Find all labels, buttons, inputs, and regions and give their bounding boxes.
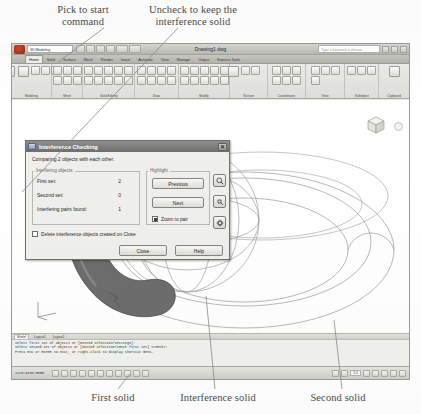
ribbon-tab-express-tools[interactable]: Express Tools xyxy=(213,55,244,63)
ribbon-panel-solid-editing: Solid Editing xyxy=(83,64,135,98)
autocad-logo-icon[interactable] xyxy=(14,45,25,54)
interfering-objects-label: Interfering objects xyxy=(34,168,75,173)
close-button[interactable]: Close xyxy=(119,245,167,256)
search-input[interactable]: Type a keyword or phrase xyxy=(318,45,380,53)
ribbon-panel-coordinates: Coordinates xyxy=(268,64,306,98)
panel-body xyxy=(388,65,401,85)
pan-icon[interactable] xyxy=(213,195,226,208)
help-button[interactable]: Help xyxy=(175,245,223,256)
zoom-icon[interactable] xyxy=(372,370,379,377)
panel-label-mesh: Mesh xyxy=(63,94,71,99)
autocad-window: 3D Modeling Drawing1.dwg Type a keyword … xyxy=(11,43,410,380)
ribbon-panel-subobject: Subobject xyxy=(345,64,379,98)
ribbon-tab-annotate[interactable]: Annotate xyxy=(134,55,157,63)
dialog-title-bar[interactable]: Interference Checking ✕ xyxy=(26,141,229,152)
viewcube[interactable] xyxy=(365,114,387,136)
layout-tab-layout1[interactable]: Layout1 xyxy=(32,335,48,339)
ribbon-tab-view[interactable]: View xyxy=(157,55,173,63)
panel-body xyxy=(272,65,301,85)
close-icon[interactable] xyxy=(400,46,407,53)
dialog-close-icon[interactable]: ✕ xyxy=(218,143,227,151)
redo-icon[interactable] xyxy=(129,45,141,53)
interfering-pairs-value: 1 xyxy=(118,206,135,212)
clean-screen-icon[interactable] xyxy=(399,370,406,377)
steering-wheel-icon[interactable] xyxy=(381,370,388,377)
ribbon-tab-render[interactable]: Render xyxy=(97,55,117,63)
new-icon[interactable] xyxy=(76,45,85,53)
ribbon-tab-mesh[interactable]: Mesh xyxy=(80,55,97,63)
modify-icons[interactable] xyxy=(180,66,229,85)
callout-pick-to-start: Pick to start command xyxy=(44,4,122,28)
minimize-icon[interactable] xyxy=(382,46,389,53)
navigation-wheel-icon[interactable] xyxy=(394,122,403,131)
ribbon-tab-insert[interactable]: Insert xyxy=(117,55,134,63)
osnap-icon[interactable] xyxy=(88,370,95,377)
next-button[interactable]: Next xyxy=(152,197,204,208)
ribbon-tab-surface[interactable]: Surface xyxy=(59,55,80,63)
qp-icon[interactable] xyxy=(133,370,140,377)
quick-view-icon[interactable] xyxy=(341,370,348,377)
orbit-icon[interactable] xyxy=(213,216,226,229)
zoom-to-pair-checkbox[interactable] xyxy=(152,216,158,222)
subobject-icons[interactable] xyxy=(347,66,376,75)
workspace-selector[interactable]: 3D Modeling xyxy=(27,45,73,53)
dialog-footer: Close Help xyxy=(119,245,223,256)
paste-icon[interactable] xyxy=(388,66,401,85)
interference-icon xyxy=(28,143,36,150)
lwt-icon[interactable] xyxy=(124,370,131,377)
callout-uncheck-to-keep: Uncheck to keep the interference solid xyxy=(133,4,253,28)
interfering-objects-box: First set: 2 Second set: 0 Interfering p… xyxy=(32,171,140,225)
model-space-icon[interactable] xyxy=(332,370,339,377)
zoom-realtime-icon[interactable] xyxy=(213,174,226,187)
dyn-icon[interactable] xyxy=(115,370,122,377)
layout-tab-model[interactable]: Model xyxy=(14,334,29,339)
polar-icon[interactable] xyxy=(79,370,86,377)
second-set-label: Second set: xyxy=(37,192,63,198)
snap-icon[interactable] xyxy=(52,370,59,377)
ortho-icon[interactable] xyxy=(70,370,77,377)
delete-interference-checkbox[interactable] xyxy=(32,231,38,237)
undo-icon[interactable] xyxy=(116,45,128,53)
callout-first-solid: First solid xyxy=(82,392,144,404)
grid-icon[interactable] xyxy=(61,370,68,377)
coordinates-icons[interactable] xyxy=(272,66,301,85)
solid-editing-icons[interactable] xyxy=(84,66,133,85)
row-first-set: First set: 2 xyxy=(37,178,135,184)
section-small-icons[interactable] xyxy=(241,66,270,75)
plot-icon[interactable] xyxy=(106,45,115,53)
maximize-icon[interactable] xyxy=(391,46,398,53)
panel-label-clipboard: Clipboard xyxy=(387,94,401,99)
panel-label-section: Section xyxy=(243,94,254,99)
showmotion-icon[interactable] xyxy=(390,370,397,377)
box-icon[interactable] xyxy=(11,66,16,85)
coordinate-readout[interactable]: 1226.6438.0000 xyxy=(15,371,44,375)
extrude-icon[interactable] xyxy=(17,66,30,85)
previous-button[interactable]: Previous xyxy=(152,178,204,189)
ducs-icon[interactable] xyxy=(106,370,113,377)
pan-icon[interactable] xyxy=(363,370,370,377)
annotation-scale[interactable]: 1:1 xyxy=(350,370,361,376)
status-bar: 1226.6438.0000 1:1 xyxy=(12,366,409,379)
ribbon-panel-view: View xyxy=(306,64,346,98)
draw-icons[interactable] xyxy=(137,66,176,85)
sc-icon[interactable] xyxy=(142,370,149,377)
panel-body xyxy=(180,65,229,85)
save-icon[interactable] xyxy=(96,45,105,53)
ribbon-tab-manage[interactable]: Manage xyxy=(173,55,194,63)
delete-interference-row[interactable]: Delete interference objects created on C… xyxy=(32,231,136,237)
ribbon-tab-output[interactable]: Output xyxy=(194,55,213,63)
otrack-icon[interactable] xyxy=(97,370,104,377)
open-icon[interactable] xyxy=(86,45,95,53)
second-set-value: 0 xyxy=(118,192,135,198)
panel-label-modeling: Modeling xyxy=(25,94,38,99)
mesh-icons[interactable] xyxy=(53,66,82,85)
ribbon-panels: Modeling Mesh Solid Editing Draw xyxy=(12,64,409,99)
ucs-icon xyxy=(34,299,60,321)
section-plane-icon[interactable] xyxy=(227,66,240,85)
layout-tab-layout2[interactable]: Layout2 xyxy=(51,335,67,339)
ribbon-tab-home[interactable]: Home xyxy=(25,55,43,63)
view-icons[interactable] xyxy=(311,66,340,85)
command-line-history[interactable]: Select first set of objects or [Nested s… xyxy=(12,340,409,355)
zoom-to-pair-row[interactable]: Zoom to pair xyxy=(152,216,204,222)
ribbon-tab-solid[interactable]: Solid xyxy=(43,55,59,63)
